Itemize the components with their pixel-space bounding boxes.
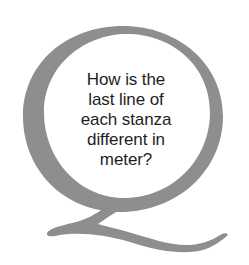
q-tail: [47, 208, 228, 252]
question-line: meter?: [62, 150, 190, 170]
question-line: How is the: [62, 70, 190, 90]
question-line: different in: [62, 130, 190, 150]
question-line: last line of: [62, 90, 190, 110]
question-text: How is the last line of each stanza diff…: [62, 70, 190, 170]
question-line: each stanza: [62, 110, 190, 130]
